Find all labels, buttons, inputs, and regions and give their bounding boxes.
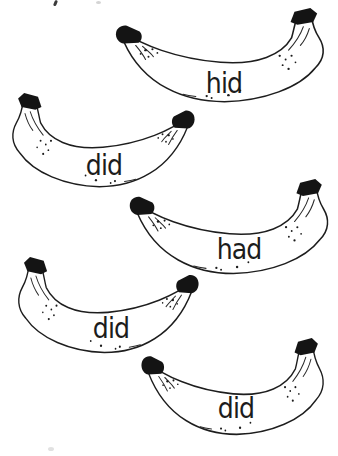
banana-illustration: [138, 337, 330, 445]
banana-card-did-3: did: [138, 337, 330, 445]
banana-word: did: [218, 395, 254, 423]
banana-word: hid: [206, 70, 242, 98]
scan-artifact: [96, 1, 101, 4]
banana-word: did: [86, 152, 122, 180]
scan-artifact: [48, 447, 54, 451]
worksheet-page: hid did had did did: [0, 0, 338, 456]
banana-word: had: [217, 236, 262, 264]
banana-word: did: [93, 315, 129, 343]
scan-artifact: [53, 0, 58, 6]
